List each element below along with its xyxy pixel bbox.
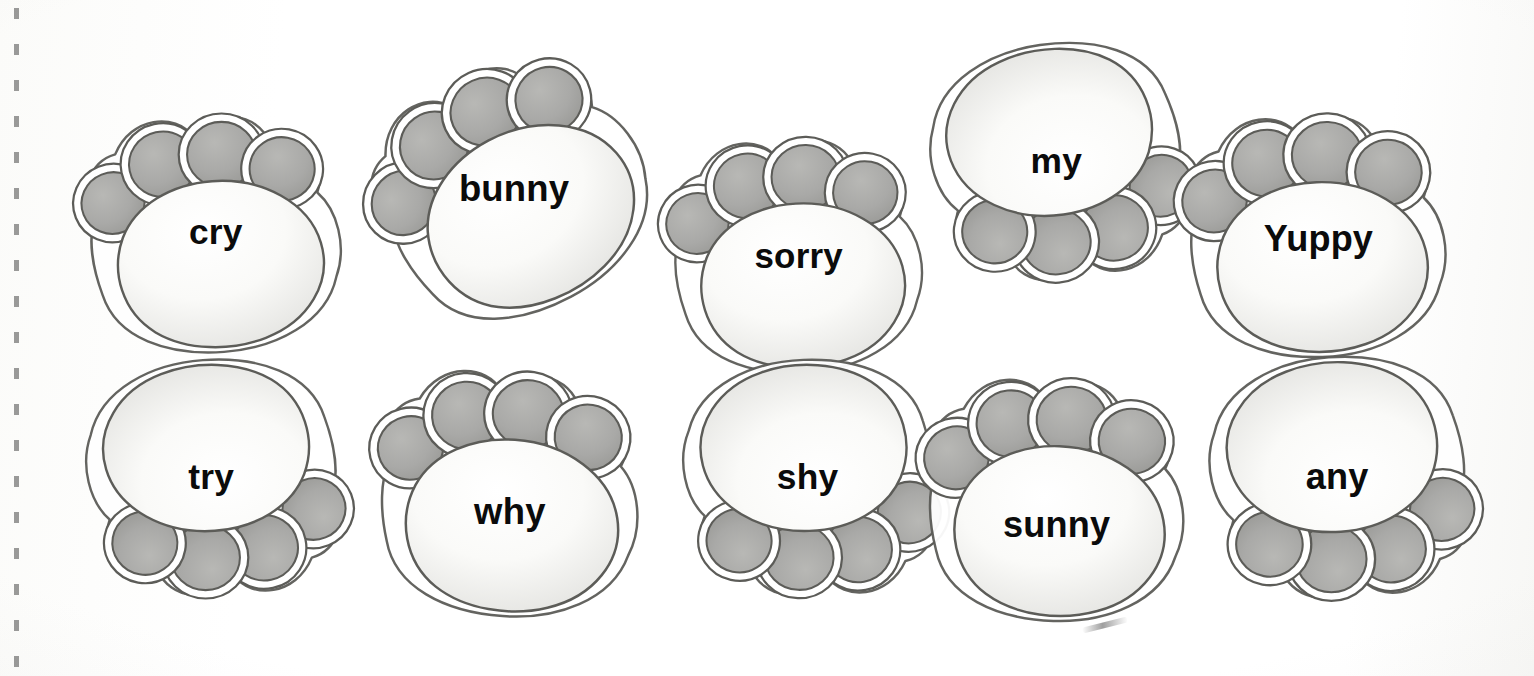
paw-card-why[interactable]: why (348, 318, 676, 646)
paw-shape (901, 331, 1215, 645)
worksheet-page: crybunnysorrymyYuppytrywhyshysunnyany (0, 0, 1534, 676)
paw-shape (1176, 328, 1500, 652)
paw-shape (348, 318, 676, 646)
paw-card-any[interactable]: any (1176, 328, 1500, 652)
paw-card-sunny[interactable]: sunny (901, 331, 1215, 645)
paw-shape (53, 331, 371, 649)
paw-card-try[interactable]: try (53, 331, 371, 649)
spiral-binding-edge (14, 8, 19, 668)
